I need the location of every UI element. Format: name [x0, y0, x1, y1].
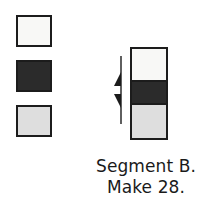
strip-segment-middle: [132, 80, 166, 105]
caption-line-segment: Segment B.: [78, 156, 214, 177]
caption-line-quantity: Make 28.: [78, 177, 214, 198]
swatch-gray: [16, 105, 52, 137]
fabric-swatch-stack: [16, 15, 54, 137]
assembled-strip-unit: [130, 47, 168, 140]
diagram-canvas: Segment B. Make 28.: [0, 0, 214, 210]
strip-segment-bottom: [132, 105, 166, 138]
swatch-white: [16, 15, 52, 47]
swatch-dark: [16, 60, 52, 92]
dimension-arrow-icon: [112, 56, 126, 124]
strip-segment-top: [132, 49, 166, 80]
diagram-caption: Segment B. Make 28.: [78, 156, 214, 198]
height-dimension-arrows: [112, 56, 126, 124]
